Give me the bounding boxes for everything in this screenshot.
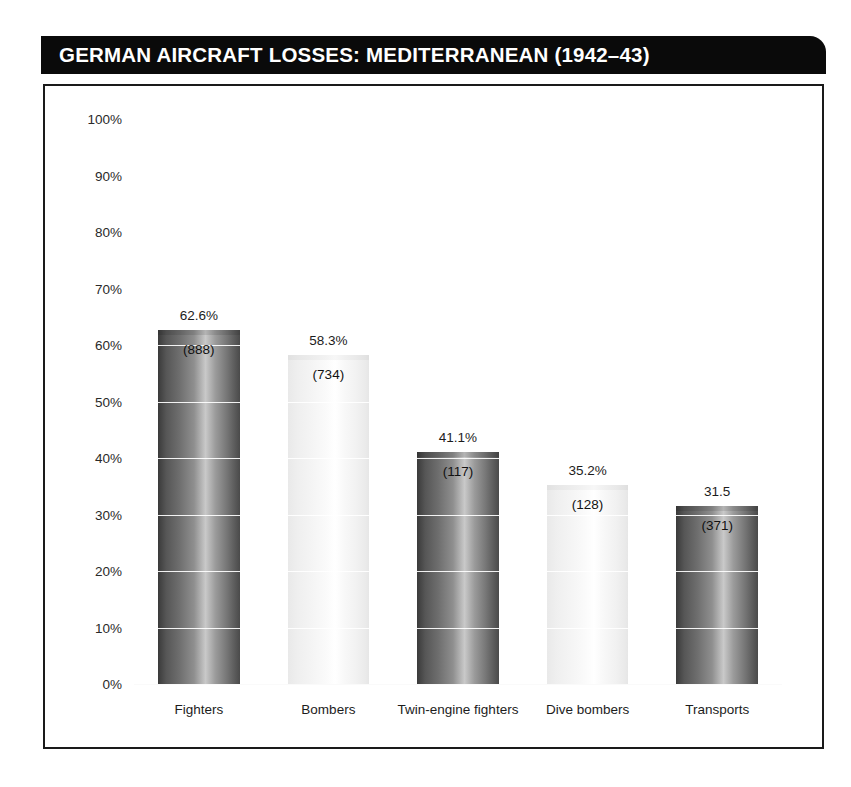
bar-fighters[interactable] <box>158 330 240 684</box>
bar-count-label: (888) <box>183 342 215 357</box>
bar-count-label: (734) <box>313 367 345 382</box>
x-axis-category-label: Fighters <box>174 702 223 717</box>
bar-percent-label: 41.1% <box>439 430 477 445</box>
bar-dive-bombers[interactable] <box>547 485 629 684</box>
x-axis-category-label: Dive bombers <box>546 702 629 717</box>
chart-figure: GERMAN AIRCRAFT LOSSES: MEDITERRANEAN (1… <box>0 0 851 787</box>
bar-percent-label: 62.6% <box>180 308 218 323</box>
y-axis-tick-label: 70% <box>95 281 122 296</box>
chart-frame: 0%10%20%30%40%50%60%70%80%90%100%62.6%(8… <box>43 84 824 749</box>
y-axis-tick-label: 20% <box>95 564 122 579</box>
bar-count-label: (371) <box>701 518 733 533</box>
bar-group[interactable]: 62.6%(888)Fighters <box>158 119 240 684</box>
chart-title-banner: GERMAN AIRCRAFT LOSSES: MEDITERRANEAN (1… <box>41 36 826 74</box>
bar-count-label: (117) <box>443 464 474 479</box>
y-axis-tick-label: 50% <box>95 394 122 409</box>
y-axis-tick-label: 90% <box>95 168 122 183</box>
y-axis-tick-label: 0% <box>102 677 122 692</box>
y-axis-tick-label: 30% <box>95 507 122 522</box>
bar-group[interactable]: 58.3%(734)Bombers <box>288 119 370 684</box>
x-axis-category-label: Transports <box>685 702 749 717</box>
bar-group[interactable]: 35.2%(128)Dive bombers <box>547 119 629 684</box>
bar-bombers[interactable] <box>288 355 370 684</box>
x-axis-category-label: Twin-engine fighters <box>398 702 519 717</box>
y-axis-tick-label: 80% <box>95 225 122 240</box>
plot-area: 0%10%20%30%40%50%60%70%80%90%100%62.6%(8… <box>134 119 782 684</box>
x-axis-category-label: Bombers <box>301 702 355 717</box>
bar-twin-engine-fighters[interactable] <box>417 452 499 684</box>
bar-group[interactable]: 41.1%(117)Twin-engine fighters <box>417 119 499 684</box>
bar-percent-label: 35.2% <box>568 463 606 478</box>
bar-percent-label: 58.3% <box>309 333 347 348</box>
y-axis-tick-label: 40% <box>95 451 122 466</box>
y-axis-tick-label: 10% <box>95 620 122 635</box>
y-axis-tick-label: 60% <box>95 338 122 353</box>
y-axis-tick-label: 100% <box>87 112 122 127</box>
bar-group[interactable]: 31.5(371)Transports <box>676 119 758 684</box>
bar-percent-label: 31.5 <box>704 484 730 499</box>
page-title: GERMAN AIRCRAFT LOSSES: MEDITERRANEAN (1… <box>59 43 650 67</box>
bar-count-label: (128) <box>572 497 604 512</box>
gridline-0 <box>134 684 782 685</box>
